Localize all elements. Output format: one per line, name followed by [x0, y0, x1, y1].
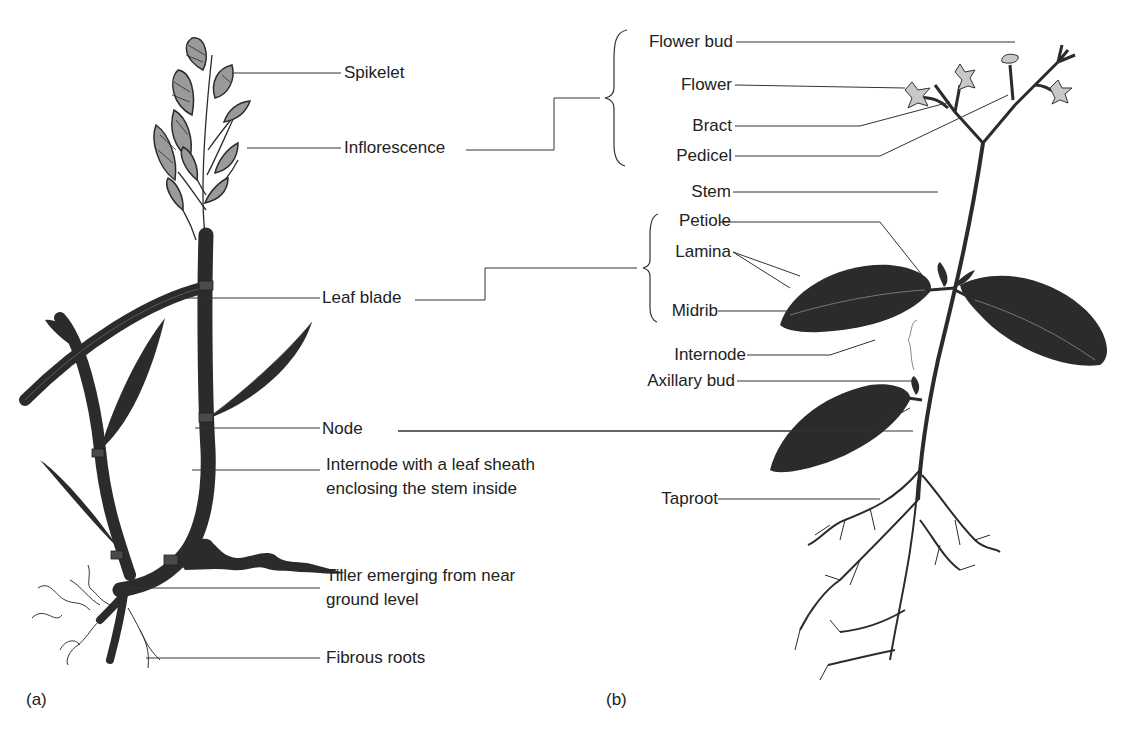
- label-internode: Internode: [674, 345, 746, 365]
- label-pedicel: Pedicel: [676, 146, 732, 166]
- label-internode-leaf-sheath-2: enclosing the stem inside: [326, 479, 517, 499]
- label-stem: Stem: [691, 182, 731, 202]
- label-flower: Flower: [681, 75, 732, 95]
- plant-structure-diagram: Spikelet Inflorescence Leaf blade Node I…: [0, 0, 1131, 736]
- label-tiller-1: Tiller emerging from near: [326, 566, 515, 586]
- spikelets: [154, 38, 250, 210]
- label-petiole: Petiole: [679, 211, 731, 231]
- grouping-braces: [605, 30, 658, 322]
- panel-b-leader-lines: [398, 42, 1015, 499]
- dicot-plant-illustration: [770, 45, 1107, 680]
- diagram-artwork: [0, 0, 1131, 736]
- grass-plant-illustration: [25, 38, 345, 668]
- label-bract: Bract: [692, 116, 732, 136]
- panel-caption-a: (a): [26, 690, 47, 710]
- label-inflorescence: Inflorescence: [344, 138, 445, 158]
- label-leaf-blade: Leaf blade: [322, 288, 401, 308]
- label-node: Node: [322, 419, 363, 439]
- panel-caption-b: (b): [606, 690, 627, 710]
- label-internode-leaf-sheath-1: Internode with a leaf sheath: [326, 455, 535, 475]
- label-fibrous-roots: Fibrous roots: [326, 648, 425, 668]
- label-axillary-bud: Axillary bud: [647, 371, 735, 391]
- label-flower-bud: Flower bud: [649, 32, 733, 52]
- label-lamina: Lamina: [675, 242, 731, 262]
- label-spikelet: Spikelet: [344, 63, 404, 83]
- label-tiller-2: ground level: [326, 590, 419, 610]
- panel-a-leader-lines: [125, 73, 913, 658]
- label-taproot: Taproot: [661, 489, 718, 509]
- label-midrib: Midrib: [672, 301, 718, 321]
